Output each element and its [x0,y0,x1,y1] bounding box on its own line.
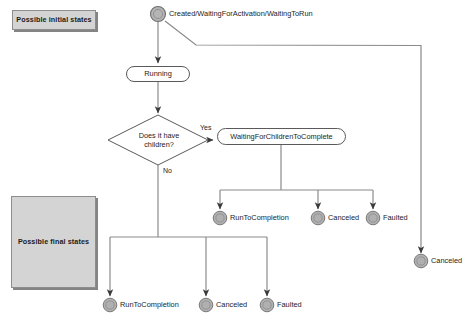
node-right-canceled[interactable] [414,254,428,268]
edge-label-yes: Yes [200,124,211,131]
legend-possible-final-states: Possible final states [11,196,96,288]
node-bottom-canceled[interactable] [199,298,213,312]
legend-final-label: Possible final states [18,238,89,246]
node-mid-faulted-label: Faulted [383,214,408,221]
decision-label-line2: children? [122,140,196,149]
node-start-state[interactable] [151,7,166,22]
node-bottom-faulted-label: Faulted [277,301,302,308]
node-bottom-run-to-completion-label: RunToCompletion [120,301,179,308]
node-running[interactable]: Running [126,66,190,82]
node-right-canceled-label: Canceled [431,257,462,264]
node-start-state-label: Created/WaitingForActivation/WaitingToRu… [169,10,313,17]
node-waiting-for-children-to-complete-label: WaitingForChildrenToComplete [230,133,332,140]
node-mid-canceled[interactable] [311,211,325,225]
node-mid-run-to-completion-label: RunToCompletion [230,214,289,221]
legend-initial-label: Possible initial states [16,16,91,24]
node-running-label: Running [144,70,172,77]
node-waiting-for-children-to-complete[interactable]: WaitingForChildrenToComplete [217,128,346,145]
node-mid-faulted[interactable] [366,211,380,225]
decision-label-line1: Does it have [122,131,196,140]
node-bottom-run-to-completion[interactable] [103,298,117,312]
node-bottom-faulted[interactable] [260,298,274,312]
node-mid-canceled-label: Canceled [328,214,359,221]
node-bottom-canceled-label: Canceled [216,301,247,308]
edge-label-no: No [163,167,172,174]
legend-possible-initial-states: Possible initial states [12,10,96,30]
decision-label: Does it have children? [122,131,196,149]
node-mid-run-to-completion[interactable] [213,211,227,225]
